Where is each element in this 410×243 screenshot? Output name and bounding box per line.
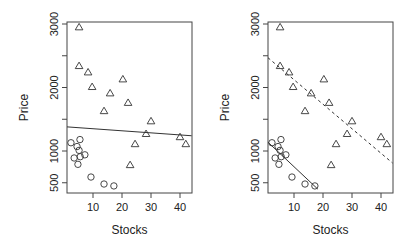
circle-point	[269, 140, 275, 146]
triangle-point	[106, 89, 114, 95]
triangle-point	[301, 107, 309, 113]
x-tick-label: 40	[375, 201, 387, 213]
triangle-point	[176, 133, 184, 139]
triangle-point	[100, 107, 108, 113]
x-axis-label: Stocks	[111, 223, 147, 237]
circle-point	[75, 161, 81, 167]
triangle-point	[348, 117, 356, 123]
triangle-point	[84, 68, 92, 74]
left-panel: 50010002000300010203040StocksPrice	[17, 12, 192, 237]
circle-point	[88, 174, 94, 180]
triangle-point	[320, 75, 328, 81]
triangle-point	[75, 23, 83, 29]
x-tick-label: 30	[346, 201, 358, 213]
triangle-point	[147, 117, 155, 123]
triangle-point	[75, 62, 83, 68]
x-tick-label: 30	[145, 201, 157, 213]
triangle-point	[124, 99, 132, 105]
y-tick-label: 1000	[48, 139, 60, 163]
circle-point	[272, 155, 278, 161]
x-tick-label: 40	[174, 201, 186, 213]
triangle-point	[88, 83, 96, 89]
x-tick-label: 10	[87, 201, 99, 213]
circle-point	[76, 147, 82, 153]
triangle-point	[126, 161, 134, 167]
y-tick-label: 500	[249, 174, 261, 192]
x-tick-label: 10	[288, 201, 300, 213]
y-tick-label: 1000	[249, 139, 261, 163]
circle-point	[276, 161, 282, 167]
circle-point	[277, 147, 283, 153]
triangle-point	[325, 99, 333, 105]
x-axis-label: Stocks	[312, 223, 348, 237]
y-tick-label: 3000	[48, 12, 60, 36]
triangle-point	[307, 89, 315, 95]
y-tick-label: 3000	[249, 12, 261, 36]
pooled-fit-line	[67, 127, 192, 136]
circle-point	[111, 183, 117, 189]
triangle-point	[332, 140, 340, 146]
right-panel: 50010002000300010203040StocksPrice	[218, 12, 393, 237]
triangle-point	[142, 130, 150, 136]
circle-point	[278, 136, 284, 142]
y-tick-label: 500	[48, 174, 60, 192]
circle-point	[77, 136, 83, 142]
triangle-point	[289, 83, 297, 89]
y-tick-label: 2000	[249, 75, 261, 99]
y-axis-label: Price	[17, 94, 31, 122]
x-tick-label: 20	[116, 201, 128, 213]
circle-point	[68, 140, 74, 146]
x-tick-label: 20	[317, 201, 329, 213]
circle-point	[101, 181, 107, 187]
triangle-point	[327, 161, 335, 167]
triangle-point	[377, 133, 385, 139]
circle-point	[302, 181, 308, 187]
y-tick-label: 2000	[48, 75, 60, 99]
circle-point	[71, 155, 77, 161]
triangle-point	[383, 140, 391, 146]
y-axis-label: Price	[218, 94, 232, 122]
triangle-point	[343, 130, 351, 136]
figure: 50010002000300010203040StocksPrice 50010…	[0, 0, 410, 243]
circle-point	[275, 143, 281, 149]
triangle-point	[119, 75, 127, 81]
triangle-point	[276, 23, 284, 29]
circle-point	[289, 174, 295, 180]
triangle-point	[131, 140, 139, 146]
triangle-point	[182, 140, 190, 146]
circle-point	[74, 143, 80, 149]
circle-group-fit-line	[268, 142, 318, 189]
